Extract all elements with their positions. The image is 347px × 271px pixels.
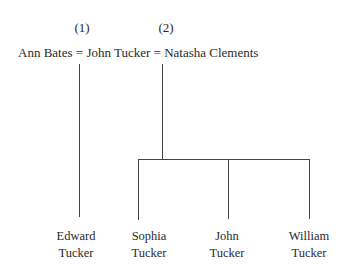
- marriage-number-1: (1): [74, 20, 89, 35]
- marriage-number-2: (2): [158, 20, 173, 35]
- child-first-name: John: [210, 228, 245, 245]
- child-last-name: Tucker: [57, 245, 96, 262]
- spouse-ann-bates: Ann Bates: [18, 45, 73, 60]
- descent-line-marriage-2: [162, 64, 163, 159]
- child-last-name: Tucker: [210, 245, 245, 262]
- child-last-name: Tucker: [289, 245, 329, 262]
- marriage-sign-1: =: [76, 45, 83, 60]
- child-first-name: William: [289, 228, 329, 245]
- child-sophia-tucker: Sophia Tucker: [132, 228, 167, 262]
- child-john-tucker: John Tucker: [210, 228, 245, 262]
- child-line-william: [309, 159, 310, 219]
- child-edward-tucker: Edward Tucker: [57, 228, 96, 262]
- marriage-sign-2: =: [154, 45, 161, 60]
- descent-line-marriage-1: [79, 64, 80, 217]
- child-line-sophia: [138, 159, 139, 220]
- child-william-tucker: William Tucker: [289, 228, 329, 262]
- person-john-tucker: John Tucker: [86, 45, 150, 60]
- spouse-natasha-clements: Natasha Clements: [164, 45, 258, 60]
- spouse-line: Ann Bates = John Tucker = Natasha Clemen…: [18, 45, 258, 60]
- child-first-name: Edward: [57, 228, 96, 245]
- child-first-name: Sophia: [132, 228, 167, 245]
- sibling-bar: [138, 159, 310, 160]
- child-last-name: Tucker: [132, 245, 167, 262]
- child-line-john: [228, 159, 229, 219]
